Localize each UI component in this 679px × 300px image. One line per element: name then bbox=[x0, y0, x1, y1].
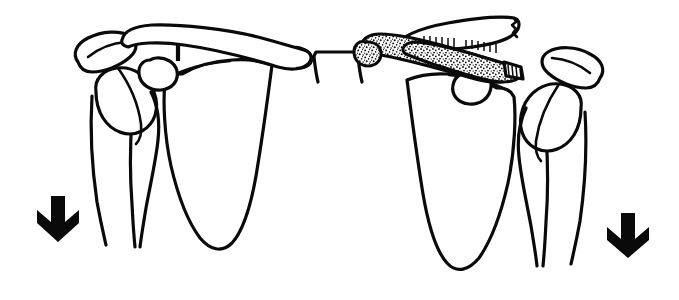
figure-root bbox=[0, 0, 679, 300]
left-coracoid-process bbox=[139, 58, 177, 90]
shoulder-girdle-illustration bbox=[0, 0, 679, 300]
right-clavicle-sternal-end bbox=[354, 42, 381, 66]
